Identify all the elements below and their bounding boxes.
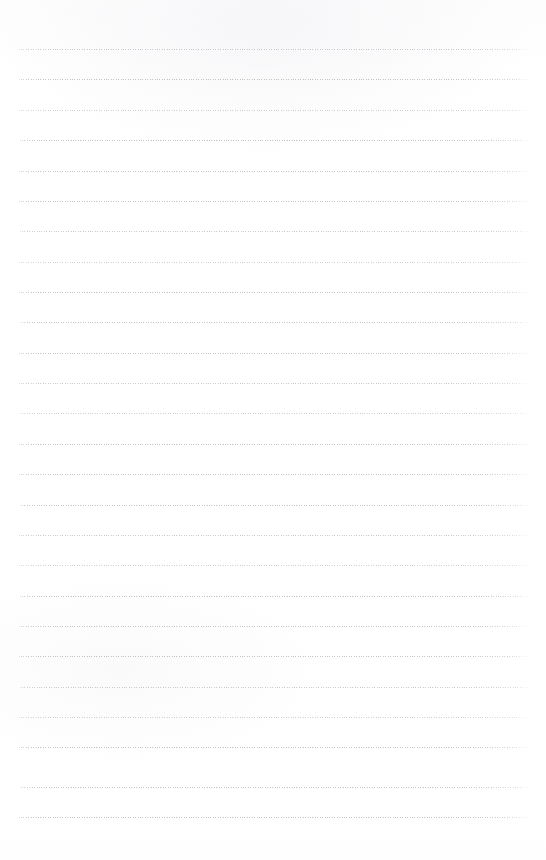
ruled-page	[0, 0, 546, 860]
writing-area[interactable]	[16, 23, 530, 821]
